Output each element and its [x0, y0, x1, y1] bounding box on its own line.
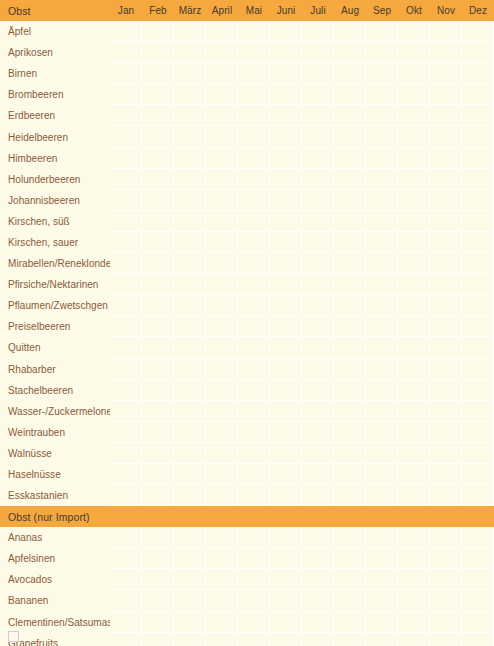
heatmap-cell: [334, 63, 366, 84]
heatmap-cell: [462, 169, 494, 190]
heatmap-cell: [462, 84, 494, 105]
heatmap-cell: [142, 105, 174, 126]
table-row: Grapefruits: [0, 633, 494, 646]
heatmap-cell: [174, 169, 206, 190]
column-header-aug: Aug: [334, 0, 366, 21]
heatmap-cell: [270, 148, 302, 169]
heatmap-cell: [110, 422, 142, 443]
heatmap-cell: [270, 443, 302, 464]
heatmap-cell: [302, 169, 334, 190]
heatmap-cell: [110, 569, 142, 590]
table-row: Kirschen, sauer: [0, 232, 494, 253]
row-label: Wasser-/Zuckermelonen: [0, 401, 110, 422]
heatmap-cell: [462, 337, 494, 358]
heatmap-cell: [142, 527, 174, 548]
heatmap-cell: [430, 21, 462, 42]
heatmap-cell: [462, 63, 494, 84]
heatmap-cell: [334, 295, 366, 316]
heatmap-cell: [110, 232, 142, 253]
heatmap-cell: [366, 316, 398, 337]
heatmap-cell: [270, 211, 302, 232]
heatmap-cell: [334, 190, 366, 211]
heatmap-cell: [142, 548, 174, 569]
column-header-jan: Jan: [110, 0, 142, 21]
row-label: Walnüsse: [0, 443, 110, 464]
heatmap-cell: [270, 548, 302, 569]
heatmap-cell: [110, 548, 142, 569]
heatmap-cell: [398, 527, 430, 548]
heatmap-cell: [398, 295, 430, 316]
heatmap-cell: [366, 548, 398, 569]
table-row: Stachelbeeren: [0, 380, 494, 401]
heatmap-cell: [334, 126, 366, 147]
heatmap-cell: [238, 590, 270, 611]
row-label: Weintrauben: [0, 422, 110, 443]
column-header-juli: Juli: [302, 0, 334, 21]
column-header-mai: Mai: [238, 0, 270, 21]
heatmap-cell: [142, 84, 174, 105]
heatmap-cell: [462, 380, 494, 401]
table-row: Aprikosen: [0, 42, 494, 63]
heatmap-cell: [398, 612, 430, 633]
heatmap-cell: [270, 295, 302, 316]
heatmap-cell: [398, 84, 430, 105]
heatmap-cell: [206, 274, 238, 295]
heatmap-cell: [398, 443, 430, 464]
table-row: Avocados: [0, 569, 494, 590]
row-label: Pfirsiche/Nektarinen: [0, 274, 110, 295]
legend: [8, 631, 24, 642]
heatmap-cell: [174, 401, 206, 422]
column-header-nov: Nov: [430, 0, 462, 21]
column-header-okt: Okt: [398, 0, 430, 21]
row-label: Johannisbeeren: [0, 190, 110, 211]
heatmap-cell: [302, 148, 334, 169]
heatmap-cell: [174, 464, 206, 485]
heatmap-cell: [430, 63, 462, 84]
heatmap-cell: [110, 84, 142, 105]
heatmap-cell: [302, 126, 334, 147]
heatmap-cell: [206, 105, 238, 126]
heatmap-cell: [110, 253, 142, 274]
heatmap-cell: [302, 401, 334, 422]
heatmap-cell: [302, 527, 334, 548]
heatmap-cell: [366, 590, 398, 611]
heatmap-cell: [302, 485, 334, 506]
table-row: Weintrauben: [0, 422, 494, 443]
heatmap-cell: [430, 148, 462, 169]
table-row: Apfelsinen: [0, 548, 494, 569]
heatmap-cell: [206, 548, 238, 569]
heatmap-cell: [174, 337, 206, 358]
heatmap-cell: [430, 464, 462, 485]
heatmap-cell: [302, 274, 334, 295]
table-row: Wasser-/Zuckermelonen: [0, 401, 494, 422]
heatmap-cell: [366, 380, 398, 401]
heatmap-cell: [142, 380, 174, 401]
heatmap-cell: [462, 485, 494, 506]
heatmap-cell: [238, 316, 270, 337]
table-head: Obst Jan Feb März April Mai Juni Juli Au…: [0, 0, 494, 21]
heatmap-cell: [206, 84, 238, 105]
heatmap-cell: [270, 380, 302, 401]
heatmap-cell: [142, 316, 174, 337]
heatmap-cell: [366, 485, 398, 506]
heatmap-cell: [366, 464, 398, 485]
table-row: Pflaumen/Zwetschgen: [0, 295, 494, 316]
heatmap-cell: [206, 316, 238, 337]
heatmap-cell: [174, 316, 206, 337]
heatmap-cell: [110, 401, 142, 422]
heatmap-cell: [334, 380, 366, 401]
heatmap-cell: [270, 21, 302, 42]
heatmap-cell: [430, 316, 462, 337]
heatmap-cell: [142, 359, 174, 380]
row-label: Brombeeren: [0, 84, 110, 105]
heatmap-cell: [142, 63, 174, 84]
heatmap-cell: [110, 148, 142, 169]
heatmap-cell: [302, 105, 334, 126]
heatmap-cell: [206, 527, 238, 548]
heatmap-cell: [334, 527, 366, 548]
heatmap-cell: [334, 337, 366, 358]
table-row: Rhabarber: [0, 359, 494, 380]
heatmap-cell: [430, 633, 462, 646]
heatmap-cell: [302, 569, 334, 590]
heatmap-cell: [110, 190, 142, 211]
